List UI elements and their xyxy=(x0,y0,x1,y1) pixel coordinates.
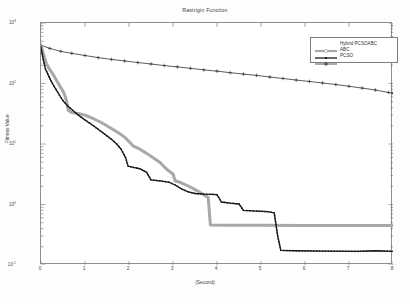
legend-label: PCSO xyxy=(340,53,353,58)
legend: Hybrid PCSOABC ABC PCSO xyxy=(310,37,398,63)
legend-label: ABC xyxy=(340,47,349,52)
chart-title: Rastrigin Function xyxy=(0,7,410,13)
legend-swatch-hybrid-pcsoabc xyxy=(314,40,338,46)
y-tick-label: 103 xyxy=(9,19,16,26)
x-tick-label: 4 xyxy=(215,266,218,271)
y-tick-label: 10-1 xyxy=(8,261,16,268)
x-tick-label: 8 xyxy=(391,266,394,271)
y-tick-label: 100 xyxy=(9,200,16,207)
chart-figure: Rastrigin Function Fitness Value (Second… xyxy=(0,0,410,304)
x-axis-label: (Second) xyxy=(0,280,410,285)
x-tick-label: 6 xyxy=(303,266,306,271)
x-tick-label: 7 xyxy=(347,266,350,271)
x-tick-label: 3 xyxy=(171,266,174,271)
legend-label: Hybrid PCSOABC xyxy=(340,41,377,46)
y-axis-label: Fitness Value xyxy=(5,114,10,143)
y-tick-label: 101 xyxy=(9,140,16,147)
x-tick-label: 0 xyxy=(39,266,42,271)
y-tick-label: 102 xyxy=(9,79,16,86)
x-tick-label: 2 xyxy=(127,266,130,271)
x-tick-label: 1 xyxy=(83,266,86,271)
legend-item[interactable]: PCSO xyxy=(314,53,394,59)
legend-swatch-abc xyxy=(314,47,338,53)
x-tick-label: 5 xyxy=(259,266,262,271)
series-abc xyxy=(41,46,393,252)
legend-swatch-pcso xyxy=(314,53,338,59)
